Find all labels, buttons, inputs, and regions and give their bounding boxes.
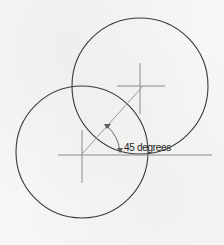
construction-diagram <box>0 0 224 245</box>
lower-center-mark <box>58 130 212 183</box>
angle-dimension-arc <box>107 126 120 151</box>
angle-label: 45 degrees <box>124 143 171 153</box>
